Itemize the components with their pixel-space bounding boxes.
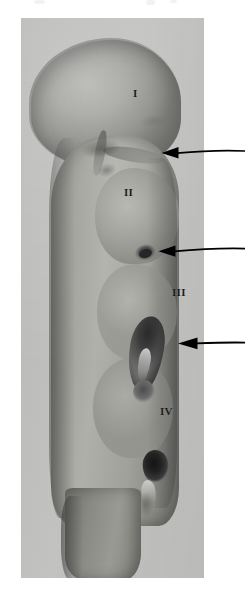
label-segment-three: III <box>172 287 186 298</box>
trunk-left-shadow <box>49 138 75 518</box>
figure-root: I II III IV <box>0 0 245 598</box>
specimen <box>21 18 204 578</box>
tapering-stalk-shadow <box>61 496 83 578</box>
top-text-remnant <box>34 0 45 4</box>
top-text-remnant <box>170 0 177 3</box>
label-segment-one: I <box>133 88 138 99</box>
photo-plate <box>21 18 204 578</box>
label-segment-two: II <box>124 187 133 198</box>
top-text-remnant <box>146 0 155 5</box>
label-segment-four: IV <box>160 406 173 417</box>
